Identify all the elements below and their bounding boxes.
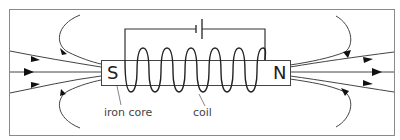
battery-cell-icon [196,19,202,39]
iron-core-bar [102,61,291,86]
iron-core-label: iron core [104,107,152,118]
north-pole-label: N [273,64,286,82]
electromagnet-diagram [0,0,400,140]
south-pole-label: S [107,64,118,82]
coil-label: coil [193,107,212,118]
coil-leader-line [199,94,205,106]
magnetic-field-lines-left [10,15,101,128]
iron-core-leader-line [117,86,121,105]
